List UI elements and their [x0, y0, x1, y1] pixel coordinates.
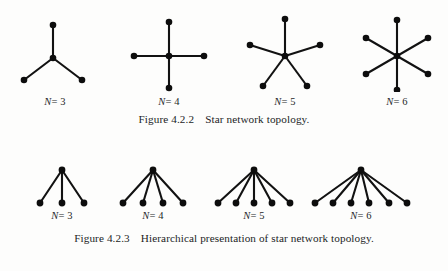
star-graph-n4 [125, 4, 213, 92]
hier-diagram-n3 [26, 158, 98, 208]
figure-caption-422-number: Figure 4.2.2 [139, 113, 195, 125]
star-label-n4-eq: = 4 [165, 96, 179, 107]
hier-diagram-n5 [208, 158, 300, 208]
hier-label-n3: N= 3 [26, 210, 98, 221]
figure-caption-422: Figure 4.2.2Star network topology. [0, 113, 448, 125]
hier-graph-n3 [26, 158, 98, 208]
hier-label-n3-eq: = 3 [58, 210, 72, 221]
hier-label-n5: N= 5 [208, 210, 300, 221]
star-graph-n3 [12, 4, 98, 92]
hier-label-n6: N= 6 [306, 210, 416, 221]
star-edges-n5 [250, 19, 320, 86]
star-label-n3: N= 3 [12, 96, 98, 107]
star-diagram-n3 [12, 4, 98, 92]
hier-nodes-n6 [312, 167, 411, 207]
hier-graph-n4 [112, 158, 194, 208]
star-label-n3-eq: = 3 [51, 96, 65, 107]
hier-edges-n3 [40, 170, 84, 203]
hier-label-n6-eq: = 6 [357, 210, 371, 221]
figure-page: N= 3 [0, 0, 448, 271]
star-label-n6-eq: = 6 [393, 96, 407, 107]
star-graph-n6 [352, 4, 442, 92]
star-diagram-n5 [239, 4, 331, 92]
hier-diagram-n4 [112, 158, 194, 208]
hier-edges-n5 [218, 170, 290, 203]
figure-caption-423: Figure 4.2.3Hierarchical presentation of… [0, 232, 448, 244]
star-edges-n3 [24, 25, 82, 80]
hier-diagram-n6 [306, 158, 416, 208]
star-label-n5-eq: = 5 [281, 96, 295, 107]
star-diagram-n6 [352, 4, 442, 92]
hier-graph-n5 [208, 158, 300, 208]
figure-hierarchical-star-topology: N= 3 [0, 140, 448, 271]
figure-caption-423-number: Figure 4.2.3 [74, 232, 130, 244]
hier-edges-n6 [315, 170, 407, 203]
hier-nodes-n4 [120, 167, 187, 207]
figure-caption-423-text: Hierarchical presentation of star networ… [141, 232, 374, 244]
star-graph-n5 [239, 4, 331, 92]
star-label-n6: N= 6 [352, 96, 442, 107]
star-label-n5: N= 5 [239, 96, 331, 107]
star-label-n4: N= 4 [125, 96, 213, 107]
star-diagram-row: N= 3 [0, 4, 448, 94]
hierarchical-diagram-row: N= 3 [0, 158, 448, 210]
hier-graph-n6 [306, 158, 416, 208]
hier-edges-n4 [123, 170, 183, 203]
hier-label-n5-eq: = 5 [250, 210, 264, 221]
figure-caption-422-text: Star network topology. [205, 113, 309, 125]
hier-label-n4-eq: = 4 [149, 210, 163, 221]
hier-label-n4: N= 4 [112, 210, 194, 221]
star-diagram-n4 [125, 4, 213, 92]
figure-star-network-topology: N= 3 [0, 0, 448, 134]
